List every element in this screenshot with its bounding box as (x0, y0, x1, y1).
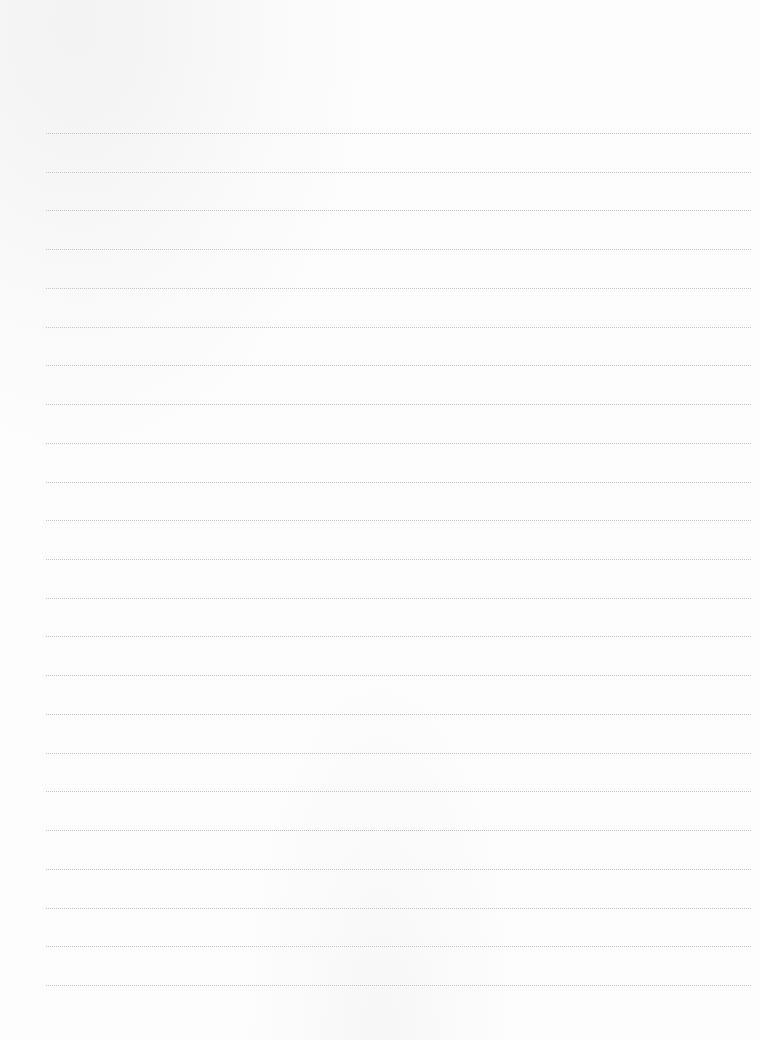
ruled-line (46, 443, 751, 444)
ruled-line (46, 753, 751, 754)
ruled-line (46, 365, 751, 366)
ruled-line (46, 327, 751, 328)
ruled-line (46, 675, 751, 676)
ruled-line (46, 714, 751, 715)
ruled-line (46, 133, 751, 134)
ruled-line (46, 598, 751, 599)
ruled-line (46, 869, 751, 870)
ruled-line (46, 559, 751, 560)
ruled-line (46, 249, 751, 250)
ruled-line (46, 946, 751, 947)
ruled-line (46, 520, 751, 521)
ruled-line (46, 172, 751, 173)
ruled-line (46, 985, 751, 986)
ruled-line (46, 908, 751, 909)
ruled-line (46, 210, 751, 211)
ruled-line (46, 404, 751, 405)
ruled-line (46, 288, 751, 289)
ruled-line (46, 482, 751, 483)
ruled-line (46, 636, 751, 637)
lined-paper-sheet (0, 0, 760, 1040)
ruled-line (46, 791, 751, 792)
ruled-line (46, 830, 751, 831)
